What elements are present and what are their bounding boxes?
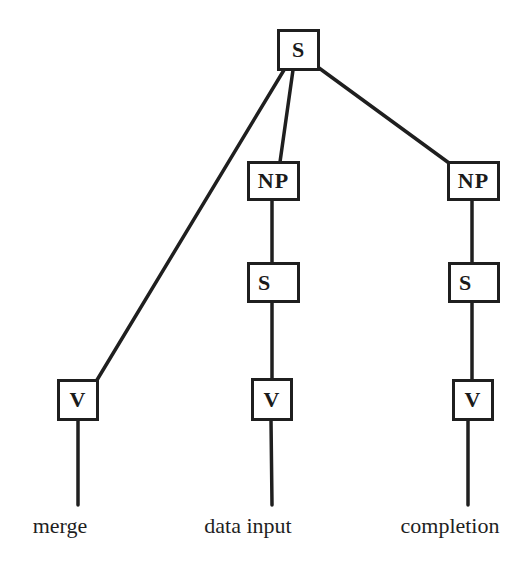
- leaf-merge: merge: [33, 513, 88, 539]
- node-label: NP: [258, 168, 289, 194]
- edge-root-np1: [280, 70, 293, 162]
- node-label: S: [258, 270, 271, 296]
- node-v-middle: V: [251, 378, 293, 421]
- node-root-s: S: [277, 29, 320, 71]
- edge-root-np2: [319, 68, 449, 163]
- node-v-right: V: [452, 379, 494, 421]
- node-label: NP: [458, 168, 489, 194]
- node-s-right: S: [448, 262, 500, 303]
- node-label: V: [264, 387, 281, 413]
- edge-v1-leaf: [271, 420, 272, 505]
- node-v-left: V: [57, 379, 99, 421]
- leaf-completion: completion: [401, 513, 500, 539]
- node-s-middle: S: [247, 262, 300, 303]
- edge-root-v0: [97, 70, 284, 380]
- node-label: V: [70, 387, 87, 413]
- node-label: V: [465, 387, 482, 413]
- node-label: S: [459, 270, 472, 296]
- node-np-middle: NP: [247, 161, 300, 201]
- node-label: S: [292, 37, 305, 63]
- leaf-data-input: data input: [204, 513, 291, 539]
- node-np-right: NP: [447, 161, 500, 201]
